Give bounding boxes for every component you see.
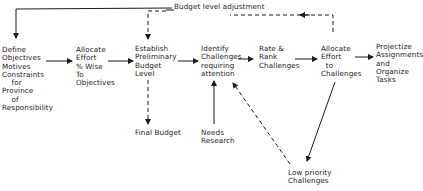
budget-level-adjustment-label: Budget level adjustment [174, 3, 265, 11]
node-rate-rank-challenges: Rate & Rank Challenges [259, 45, 300, 70]
node-allocate-effort-challenges: Allocate Effort to Challenges [321, 45, 362, 78]
node-define-objectives: Define Objectives Motives Constraints fo… [2, 46, 53, 112]
node-projectize-assignments: Projectize Assignments and Organize Task… [376, 43, 423, 84]
node-needs-research: Needs Research [201, 129, 235, 146]
node-establish-budget-level: Establish Preliminary Budget Level [135, 45, 177, 78]
node-allocate-effort-objectives: Allocate Effort % Wise To Objectives [76, 46, 115, 87]
feedback-dashed-line [230, 15, 333, 32]
node-identify-challenges: Identify Challenges requiring attention [201, 45, 242, 78]
node-low-priority-challenges: Low priority Challenges [288, 169, 332, 186]
node-final-budget: Final Budget [135, 129, 181, 137]
feedback-solid-line [16, 8, 172, 38]
dashed-to-establish [148, 11, 166, 39]
